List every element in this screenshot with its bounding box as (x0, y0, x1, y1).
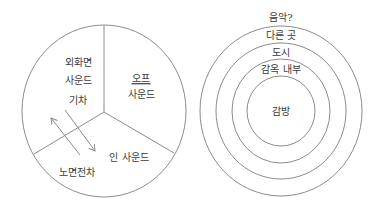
arrow-down-right-icon (65, 110, 95, 151)
label-elsewhere: 다른 곳 (266, 30, 296, 41)
divider-lower-left (34, 112, 104, 154)
arrow-up-left-icon (51, 118, 80, 155)
label-tram: 노면전차 (59, 167, 95, 178)
label-train: 기차 (69, 95, 87, 106)
label-off-line2: 사운드 (128, 89, 155, 100)
divider-lower-right (104, 112, 174, 153)
label-prison-inside: 감옥 내부 (261, 64, 300, 75)
concentric-space-diagram: 음악? 다른 곳 도시 감옥 내부 감방 (200, 12, 362, 196)
label-cell: 감방 (272, 106, 290, 117)
sound-space-diagram: 외화면 사운드 기차 오프 사운드 인 사운드 노면전차 (22, 25, 186, 197)
label-in-sound: 인 사운드 (109, 152, 148, 163)
label-off-line1: 오프 (132, 73, 150, 84)
label-city: 도시 (272, 47, 290, 58)
label-music: 음악? (269, 12, 292, 23)
label-offscreen-line1: 외화면 (65, 57, 92, 68)
label-offscreen-line2: 사운드 (65, 75, 92, 86)
diagram-canvas: 외화면 사운드 기차 오프 사운드 인 사운드 노면전차 음악? 다른 곳 도시… (0, 0, 384, 214)
